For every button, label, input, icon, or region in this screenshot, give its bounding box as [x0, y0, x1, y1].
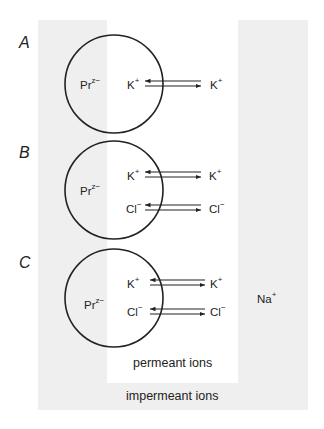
cell-circle-c — [65, 249, 163, 347]
protein-label-a: Prz− — [80, 77, 100, 91]
ion-outside-a-k: K+ — [210, 77, 222, 91]
protein-label-b: Prz− — [80, 183, 100, 197]
panel-label-c: C — [19, 254, 31, 272]
ion-inside-c-cl: Cl− — [127, 304, 143, 318]
impermeant-ion-na: Na+ — [257, 291, 276, 305]
impermeant-ions-label: impermeant ions — [126, 389, 218, 403]
panel-label-a: A — [19, 34, 30, 52]
ion-outside-b-cl: Cl− — [209, 201, 225, 215]
ion-inside-b-cl: Cl− — [126, 201, 142, 215]
permeant-ions-label: permeant ions — [133, 356, 212, 370]
protein-label-c: Prz− — [84, 297, 104, 311]
ion-inside-b-k: K+ — [127, 168, 139, 182]
ion-outside-b-k: K+ — [209, 168, 221, 182]
panel-label-b: B — [19, 144, 30, 162]
ion-inside-c-k: K+ — [127, 276, 139, 290]
ion-outside-c-cl: Cl− — [210, 304, 226, 318]
ion-outside-c-k: K+ — [210, 276, 222, 290]
ion-inside-a-k: K+ — [127, 77, 139, 91]
